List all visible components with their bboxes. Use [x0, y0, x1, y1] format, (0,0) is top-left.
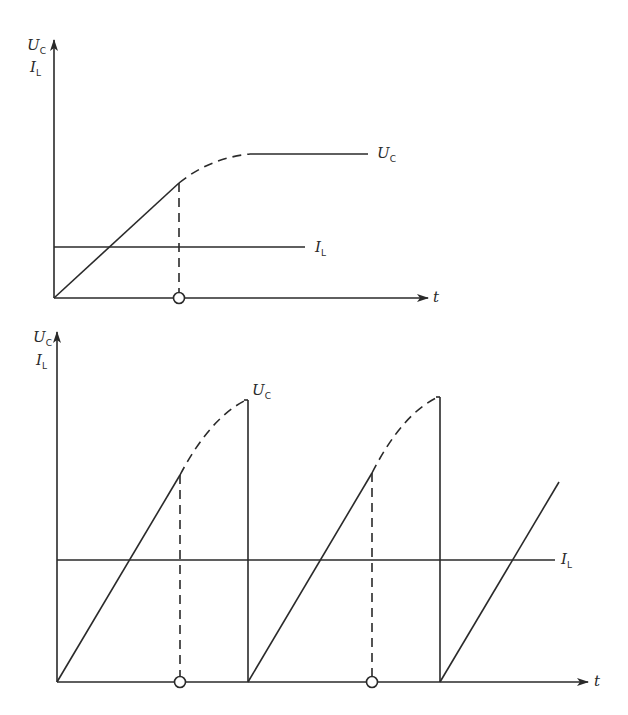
top-curve-label-uc: UC: [377, 146, 396, 164]
bottom-uc-ramp-1: [57, 475, 180, 682]
top-y-label-il: IL: [30, 60, 41, 78]
bottom-uc-ramp-2: [248, 473, 372, 682]
top-uc-ramp: [54, 183, 179, 298]
bottom-y-label-il: IL: [36, 353, 47, 371]
diagram-canvas: [0, 0, 628, 715]
top-x-label-t: t: [433, 290, 439, 305]
top-y-label-uc: UC: [27, 38, 46, 56]
bottom-y-label-uc: UC: [33, 330, 52, 348]
bottom-switch-marker-1: [175, 677, 186, 688]
bottom-uc-ramp-3: [440, 482, 559, 682]
bottom-plot: [57, 332, 588, 688]
bottom-x-label-t: t: [594, 674, 600, 689]
top-uc-dashed-curve: [179, 154, 250, 183]
bottom-switch-marker-2: [367, 677, 378, 688]
bottom-uc-dashed-1: [180, 400, 246, 475]
bottom-uc-dashed-2: [372, 397, 438, 473]
top-curve-label-il: IL: [315, 240, 326, 258]
bottom-curve-label-uc: UC: [252, 383, 271, 401]
bottom-curve-label-il: IL: [561, 552, 572, 570]
top-switch-marker: [174, 293, 185, 304]
top-plot: [54, 40, 428, 304]
